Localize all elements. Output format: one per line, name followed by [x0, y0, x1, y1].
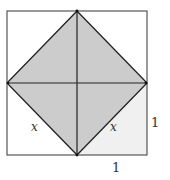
label-right-x: x [110, 120, 117, 134]
vertex-right [145, 82, 148, 85]
label-right-1: 1 [151, 115, 159, 130]
label-left-x: x [31, 120, 38, 134]
geometry-figure: x x 1 1 [0, 0, 170, 180]
vertex-top [76, 10, 79, 13]
vertex-bottom [76, 154, 79, 157]
vertex-left [7, 82, 9, 84]
label-bottom-1: 1 [112, 160, 120, 175]
